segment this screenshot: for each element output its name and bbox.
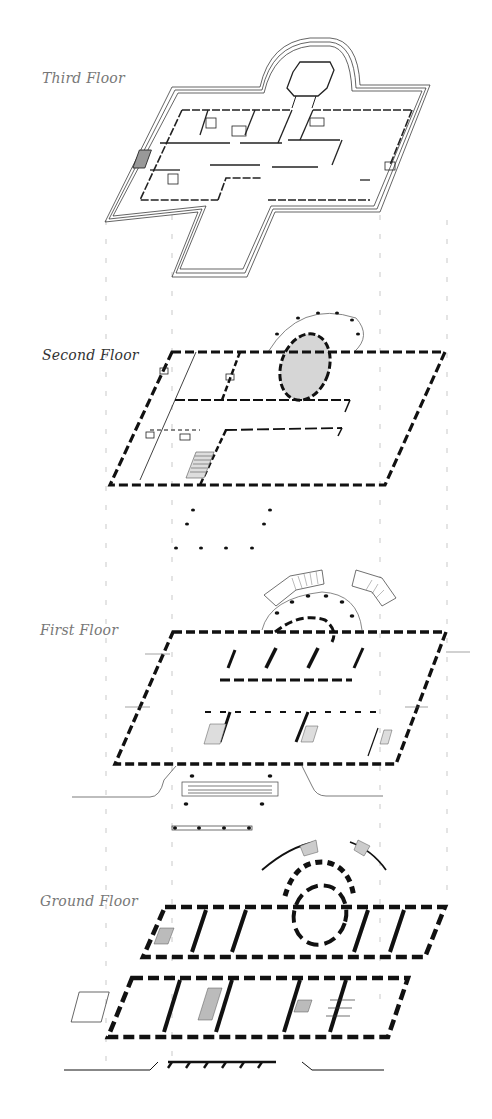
plans-svg	[0, 0, 492, 1119]
first-floor-plan	[72, 570, 470, 830]
floor-plan-diagram: Third Floor Second Floor First Floor Gro…	[0, 0, 492, 1119]
second-floor-columns	[174, 508, 272, 549]
third-floor-plan	[105, 38, 430, 277]
ground-floor-plan	[64, 840, 445, 1070]
second-floor-plan	[110, 312, 445, 550]
